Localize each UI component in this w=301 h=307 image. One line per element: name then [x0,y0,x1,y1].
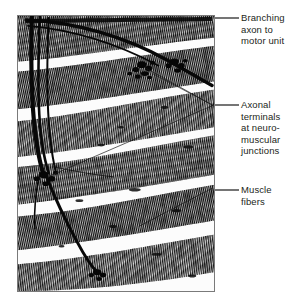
callout-label-muscle-fibers: Muscle fibers [241,184,301,207]
callout-label-axonal-terminals: Axonal terminals at neuro- muscular junc… [241,99,301,157]
micrograph-panel [17,15,215,292]
figure-root: Branching axon to motor unit Axonal term… [0,0,301,307]
callout-label-branching-axon: Branching axon to motor unit [241,12,301,47]
micrograph-image [18,16,214,291]
